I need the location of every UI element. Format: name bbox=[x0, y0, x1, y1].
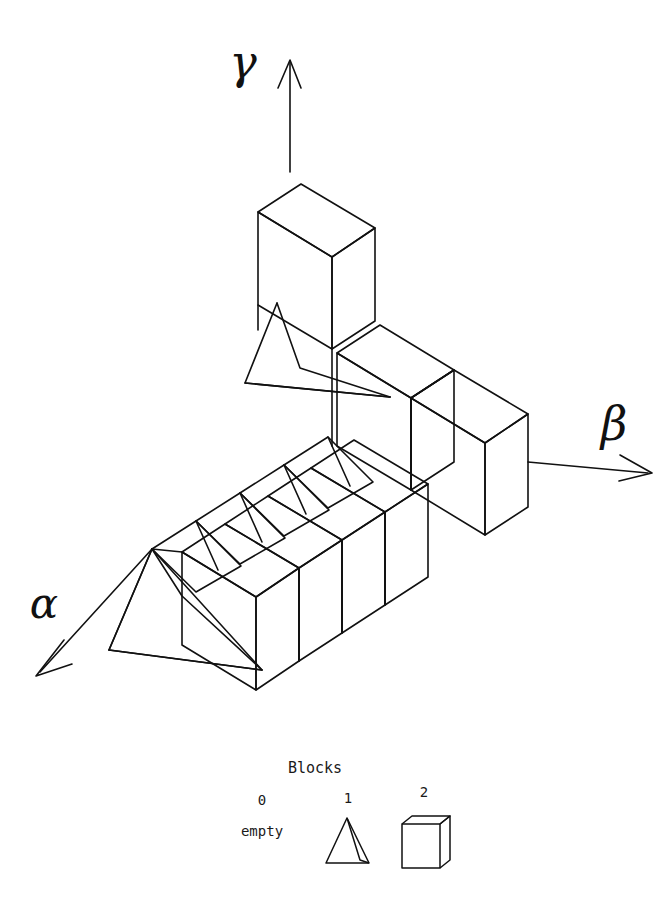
legend-code-1: 1 bbox=[344, 790, 352, 806]
block-diagram-figure: γ β α Blocks 0 empty 1 2 bbox=[0, 0, 667, 924]
legend-label-empty: empty bbox=[241, 823, 283, 839]
figure-background bbox=[0, 0, 667, 924]
beta-axis-label: β bbox=[599, 397, 628, 451]
gamma-axis-label: γ bbox=[229, 35, 257, 89]
legend-title: Blocks bbox=[288, 759, 342, 777]
legend-code-0: 0 bbox=[258, 792, 266, 808]
alpha-axis-label: α bbox=[30, 579, 58, 628]
legend-code-2: 2 bbox=[420, 784, 428, 800]
